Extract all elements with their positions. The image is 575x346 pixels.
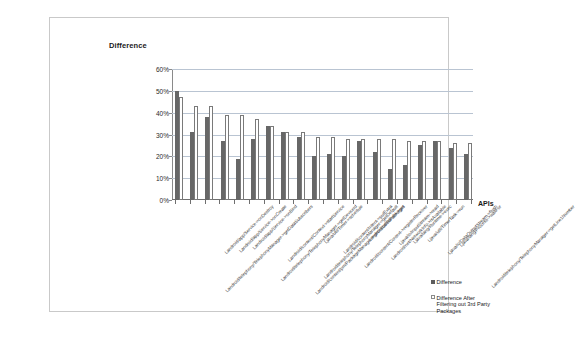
x-axis-tick-mark <box>382 200 383 204</box>
bar-group <box>433 69 441 200</box>
bar-group <box>266 69 274 200</box>
x-axis-tick-mark <box>456 200 457 204</box>
x-axis-tick-mark <box>367 200 368 204</box>
x-axis-tick-mark <box>219 200 220 204</box>
bar-group <box>342 69 350 200</box>
bar-group <box>236 69 244 200</box>
bar-difference-filtered <box>346 139 350 200</box>
bar-difference-filtered <box>255 119 259 200</box>
bar-difference-filtered <box>377 139 381 200</box>
legend-swatch-icon <box>431 295 435 299</box>
bar-difference-filtered <box>422 141 426 200</box>
bar-difference-filtered <box>392 139 396 200</box>
y-axis-tick-label: 10% <box>156 175 169 182</box>
x-axis-tick-mark <box>279 200 280 204</box>
x-axis-title: APIs <box>478 200 494 207</box>
bar-group <box>251 69 259 200</box>
bar-group <box>281 69 289 200</box>
x-axis-tick-mark <box>338 200 339 204</box>
bar-difference-filtered <box>240 115 244 200</box>
x-axis-tick-mark <box>190 200 191 204</box>
x-axis-tick-mark <box>205 200 206 204</box>
legend-entry: Difference After Filtering out 3rd Party… <box>431 295 495 315</box>
y-axis-tick-label: 20% <box>156 153 169 160</box>
bar-group <box>205 69 213 200</box>
x-axis-tick-mark <box>234 200 235 204</box>
bar-group <box>449 69 457 200</box>
y-axis-tick-label: 40% <box>156 109 169 116</box>
bar-difference-filtered <box>270 126 274 200</box>
chart-frame: Difference 60%50%40%30%20%10%0% Landroid… <box>49 17 449 312</box>
y-axis-tick-label: 0% <box>160 197 169 204</box>
x-axis-category-label: Ljava/lang/Process->waitFor <box>458 204 502 248</box>
bar-group <box>403 69 411 200</box>
x-axis-tick-mark <box>175 200 176 204</box>
bar-group <box>312 69 320 200</box>
bar-difference-filtered <box>361 139 365 200</box>
bar-difference-filtered <box>194 106 198 200</box>
legend-swatch-icon <box>431 280 435 284</box>
bar-difference-filtered <box>453 143 457 200</box>
x-axis-tick-marks <box>172 200 473 204</box>
bar-difference-filtered <box>468 143 472 200</box>
bar-group <box>357 69 365 200</box>
bar-difference-filtered <box>179 97 183 200</box>
x-axis-tick-mark <box>471 200 472 204</box>
legend-label: Difference After Filtering out 3rd Party… <box>437 295 496 315</box>
x-axis-tick-mark <box>323 200 324 204</box>
x-axis-tick-mark <box>249 200 250 204</box>
bar-group <box>221 69 229 200</box>
x-axis-tick-mark <box>397 200 398 204</box>
bar-group <box>297 69 305 200</box>
bar-group <box>373 69 381 200</box>
y-axis-title: Difference <box>109 41 147 50</box>
bar-difference-filtered <box>407 141 411 200</box>
x-axis-category-label: Landroid/telephony/TelephonyManager->get… <box>490 204 575 289</box>
bar-group <box>175 69 183 200</box>
y-axis-tick-label: 30% <box>156 131 169 138</box>
bar-difference-filtered <box>225 115 229 200</box>
bar-groups <box>172 69 473 200</box>
x-axis-category-label: Landroid/telephony/TelephonyManager->get… <box>280 204 358 282</box>
bar-difference-filtered <box>285 132 289 200</box>
bar-group <box>327 69 335 200</box>
bar-difference-filtered <box>331 137 335 200</box>
legend-label: Difference <box>437 279 462 286</box>
y-axis-tick-label: 50% <box>156 87 169 94</box>
bar-difference-filtered <box>437 141 441 200</box>
chart-legend: DifferenceDifference After Filtering out… <box>431 279 495 323</box>
x-axis-tick-mark <box>441 200 442 204</box>
legend-entry: Difference <box>431 279 495 286</box>
bar-group <box>190 69 198 200</box>
x-axis-tick-mark <box>264 200 265 204</box>
x-axis-tick-mark <box>427 200 428 204</box>
bar-difference-filtered <box>316 137 320 200</box>
bar-group <box>388 69 396 200</box>
y-axis-tick-label: 60% <box>156 66 169 73</box>
x-axis-tick-mark <box>412 200 413 204</box>
bar-group <box>418 69 426 200</box>
bar-difference-filtered <box>301 132 305 200</box>
bar-group <box>464 69 472 200</box>
plot-area: 60%50%40%30%20%10%0% <box>172 69 473 200</box>
bar-difference-filtered <box>209 106 213 200</box>
